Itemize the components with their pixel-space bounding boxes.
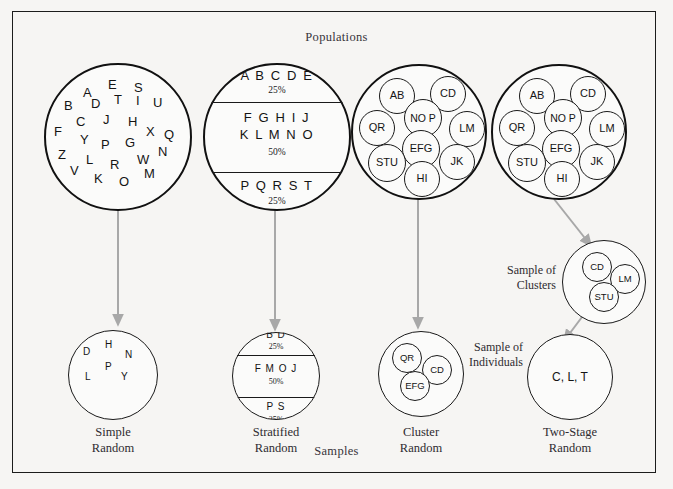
population-twostage-subcircle-label: LM — [598, 123, 615, 134]
caption-stratified-line1: Stratified — [206, 425, 346, 441]
population-simple-letter: P — [101, 138, 110, 151]
population-twostage-subcircle-label: QR — [508, 122, 527, 133]
population-twostage-subcircle: JK — [579, 144, 615, 180]
population-simple-letter: D — [91, 97, 100, 110]
population-strata-stratified: A B C D E25%F G H I JK L M N O50%P Q R S… — [203, 63, 351, 211]
label-sample-of-clusters-line2: Clusters — [452, 278, 556, 293]
population-simple-letter: G — [125, 136, 135, 149]
population-cluster-subcircle-label: QR — [368, 122, 387, 133]
population-cluster-subcircle: QR — [359, 110, 395, 146]
caption-cluster: Cluster Random — [351, 425, 491, 456]
population-simple-letter: V — [70, 164, 79, 177]
caption-twostage-line1: Two-Stage — [500, 425, 640, 441]
sample-stratified-band-percent: 50% — [232, 377, 320, 386]
population-twostage-subcircle: HI — [544, 161, 580, 197]
sample-cluster-subcircle-label: QR — [399, 353, 415, 363]
population-clusters-twostage: ABCDNO PQRLMEFGSTUJKHI — [491, 64, 627, 200]
population-simple-letter: E — [108, 78, 117, 91]
caption-cluster-line2: Random — [351, 441, 491, 457]
caption-simple-line1: Simple — [43, 425, 183, 441]
population-stratified-band-percent: 50% — [203, 147, 351, 157]
sample-stratified-band-text: P S — [232, 401, 320, 412]
sample-of-clusters-subcircle-label: LM — [617, 274, 632, 284]
label-sample-of-individuals-line2: Individuals — [415, 355, 523, 370]
population-twostage-subcircle-label: CD — [579, 88, 597, 99]
label-sample-of-individuals-line1: Sample of — [415, 340, 523, 355]
population-simple-letter: I — [136, 94, 140, 107]
sample-stratified-band-text: B D — [232, 332, 320, 340]
sample-of-clusters-subcircle-label: STU — [594, 292, 615, 302]
population-stratified-band-text: F G H I J — [203, 110, 351, 125]
population-simple-letter: U — [153, 96, 162, 109]
population-cluster-subcircle-label: HI — [416, 173, 429, 184]
population-twostage-subcircle-label: HI — [556, 173, 569, 184]
sample-letters-simple: DHNPLY — [68, 330, 158, 420]
population-stratified-band-text: P Q R S T — [203, 178, 351, 193]
sample-simple-letter: H — [105, 340, 112, 350]
population-simple-letter: T — [114, 93, 122, 106]
population-simple-letter: J — [103, 113, 110, 126]
population-simple-letter: C — [76, 115, 85, 128]
sample-of-clusters-contents: CDLMSTU — [562, 240, 646, 324]
population-simple-letter: F — [54, 125, 62, 138]
population-cluster-subcircle-label: AB — [389, 90, 406, 101]
sample-of-clusters-subcircle: STU — [589, 282, 619, 312]
sample-of-individuals-circle: C, L, T — [527, 334, 613, 420]
population-cluster-subcircle-label: STU — [375, 157, 399, 168]
population-simple-letter: L — [86, 153, 93, 166]
sample-stratified-band-percent: 25% — [232, 415, 320, 420]
sample-cluster-subcircle-label: EFG — [404, 381, 426, 391]
caption-simple-line2: Random — [43, 441, 183, 457]
sample-strata-stratified: B D25%F M O J50%P S25% — [232, 332, 320, 420]
sample-of-individuals-text: C, L, T — [552, 370, 588, 384]
sample-stratified-band-percent: 25% — [232, 342, 320, 351]
population-twostage-subcircle-label: AB — [529, 90, 546, 101]
sample-simple-letter: Y — [121, 372, 128, 382]
sampling-methods-figure: Populations Samples AESBDTIUCJHFXQYPGZNL… — [0, 0, 673, 489]
sample-of-clusters-subcircle-label: CD — [589, 262, 605, 272]
sample-stratified-band-text: F M O J — [232, 363, 320, 374]
population-twostage-subcircle: QR — [499, 110, 535, 146]
population-simple-letter: B — [64, 99, 73, 112]
population-cluster-subcircle: HI — [404, 161, 440, 197]
population-twostage-subcircle: STU — [508, 144, 546, 182]
population-letters-simple: AESBDTIUCJHFXQYPGZNLRWVKOM — [44, 63, 192, 211]
population-cluster-subcircle: LM — [449, 111, 485, 147]
caption-cluster-line1: Cluster — [351, 425, 491, 441]
population-simple-letter: X — [146, 125, 155, 138]
population-stratified-band-text: A B C D E — [203, 68, 351, 83]
label-sample-of-clusters: Sample of Clusters — [452, 263, 556, 293]
population-simple-letter: H — [128, 115, 137, 128]
population-stratified-band-percent: 25% — [203, 85, 351, 95]
caption-twostage: Two-Stage Random — [500, 425, 640, 456]
label-sample-of-individuals: Sample of Individuals — [415, 340, 523, 370]
population-cluster-subcircle-label: EFG — [409, 143, 434, 154]
population-cluster-subcircle-label: CD — [439, 88, 457, 99]
populations-header: Populations — [0, 30, 673, 45]
sample-cluster-subcircle: EFG — [400, 371, 430, 401]
population-twostage-subcircle-label: STU — [515, 157, 539, 168]
population-simple-letter: K — [94, 172, 103, 185]
population-cluster-subcircle-label: JK — [450, 156, 465, 167]
population-stratified-divider — [203, 102, 351, 103]
population-simple-letter: R — [110, 158, 119, 171]
population-simple-letter: N — [158, 145, 167, 158]
sample-stratified-divider — [232, 397, 320, 398]
population-stratified-divider — [203, 172, 351, 173]
population-stratified-band-text: K L M N O — [203, 127, 351, 142]
population-simple-letter: O — [119, 175, 129, 188]
caption-twostage-line2: Random — [500, 441, 640, 457]
population-simple-letter: Y — [80, 133, 89, 146]
sample-simple-letter: L — [85, 372, 91, 382]
population-cluster-subcircle: STU — [368, 144, 406, 182]
population-simple-letter: Q — [164, 128, 174, 141]
population-cluster-subcircle: JK — [439, 144, 475, 180]
sample-of-clusters-subcircle: CD — [582, 252, 612, 282]
population-simple-letter: M — [144, 167, 155, 180]
population-twostage-subcircle: LM — [589, 111, 625, 147]
caption-stratified-line2: Random — [206, 441, 346, 457]
sample-simple-letter: D — [83, 347, 90, 357]
population-cluster-subcircle-label: NO P — [409, 113, 437, 124]
population-stratified-band-percent: 25% — [203, 196, 351, 206]
population-simple-letter: Z — [58, 148, 66, 161]
